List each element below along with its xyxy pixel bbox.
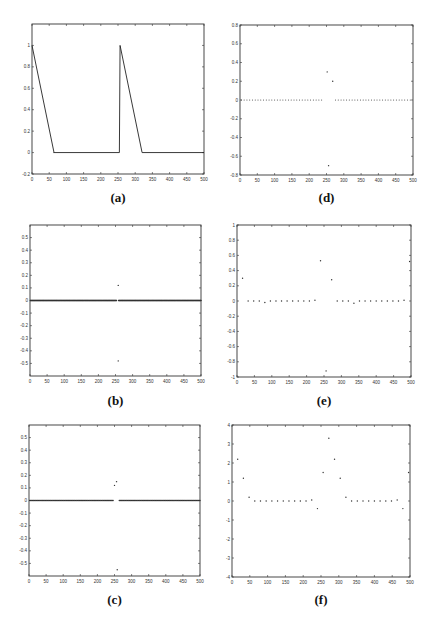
data-point xyxy=(357,100,358,101)
data-point xyxy=(275,300,276,301)
data-point xyxy=(393,100,394,101)
data-point xyxy=(374,500,375,501)
y-tick-label: 0 xyxy=(235,98,238,103)
data-point xyxy=(302,100,303,101)
data-point xyxy=(263,100,264,101)
data-point xyxy=(243,478,244,479)
x-tick-label: 400 xyxy=(166,177,174,182)
data-point xyxy=(345,497,346,498)
data-point xyxy=(294,500,295,501)
y-tick-label: -0.3 xyxy=(20,336,28,341)
x-tick-label: 0 xyxy=(236,380,239,385)
plot-frame xyxy=(237,225,411,377)
y-tick-label: 4 xyxy=(227,423,230,428)
y-tick-label: -2 xyxy=(226,537,230,542)
data-point xyxy=(382,100,383,101)
data-point xyxy=(280,100,281,101)
data-point xyxy=(257,100,258,101)
data-point xyxy=(293,100,294,101)
data-point xyxy=(337,300,338,301)
y-tick-label: -4 xyxy=(226,575,230,580)
data-point xyxy=(252,100,253,101)
x-tick-label: 250 xyxy=(317,580,325,585)
data-point xyxy=(398,300,399,301)
y-tick-label: 0.6 xyxy=(229,253,236,258)
y-tick-label: 0 xyxy=(24,498,27,503)
x-tick-label: 200 xyxy=(94,579,102,584)
x-tick-label: 300 xyxy=(128,579,136,584)
data-point xyxy=(241,100,242,101)
y-tick-label: 0.2 xyxy=(229,283,236,288)
data-point xyxy=(377,100,378,101)
y-tick-label: 0.2 xyxy=(24,129,31,134)
x-tick-label: 0 xyxy=(29,379,32,384)
data-point xyxy=(360,100,361,101)
data-point xyxy=(322,472,323,473)
data-point xyxy=(254,500,255,501)
x-tick-label: 150 xyxy=(288,178,296,183)
data-point xyxy=(316,100,317,101)
data-point xyxy=(409,261,410,262)
plot-frame xyxy=(232,425,410,577)
x-tick-label: 300 xyxy=(129,379,137,384)
data-point xyxy=(313,100,314,101)
x-tick-label: 450 xyxy=(183,177,191,182)
x-tick-label: 100 xyxy=(271,178,279,183)
y-tick-label: 0.4 xyxy=(21,448,28,453)
data-point xyxy=(352,100,353,101)
data-point xyxy=(385,100,386,101)
data-point xyxy=(270,300,271,301)
data-point xyxy=(286,300,287,301)
data-point xyxy=(305,500,306,501)
y-tick-label: -0.2 xyxy=(227,314,235,319)
x-tick-label: 500 xyxy=(409,178,417,183)
x-tick-label: 100 xyxy=(59,579,67,584)
data-point xyxy=(362,500,363,501)
data-point xyxy=(271,500,272,501)
y-tick-label: 0.2 xyxy=(232,79,239,84)
data-point xyxy=(364,300,365,301)
data-point xyxy=(396,499,397,500)
x-tick-label: 300 xyxy=(340,178,348,183)
data-point xyxy=(332,81,333,82)
data-point xyxy=(379,100,380,101)
y-tick-label: -0.4 xyxy=(19,548,27,553)
data-point xyxy=(237,459,238,460)
y-tick-label: 0.2 xyxy=(22,273,29,278)
x-tick-label: 250 xyxy=(111,579,119,584)
data-point xyxy=(401,100,402,101)
panel-a: 050100150200250300350400450500-0.200.20.… xyxy=(22,24,208,205)
data-point xyxy=(314,300,315,301)
y-tick-label: -0.2 xyxy=(22,172,30,177)
data-point xyxy=(303,300,304,301)
data-point xyxy=(277,500,278,501)
data-point xyxy=(298,300,299,301)
x-tick-label: 500 xyxy=(196,579,204,584)
data-point xyxy=(244,100,245,101)
y-tick-label: -0.3 xyxy=(19,536,27,541)
x-tick-label: 150 xyxy=(285,380,293,385)
data-point xyxy=(288,500,289,501)
data-point xyxy=(199,500,200,501)
data-point xyxy=(112,500,113,501)
data-point xyxy=(255,100,256,101)
data-point xyxy=(281,300,282,301)
y-tick-label: 1 xyxy=(232,223,235,228)
x-tick-label: 250 xyxy=(320,380,328,385)
y-tick-label: 0.4 xyxy=(22,248,29,253)
data-point xyxy=(407,100,408,101)
data-point xyxy=(311,499,312,500)
data-point xyxy=(116,481,117,482)
y-tick-label: -1 xyxy=(231,375,235,380)
y-tick-label: -0.4 xyxy=(227,329,235,334)
data-point xyxy=(349,100,350,101)
data-point xyxy=(403,300,404,301)
panel-label: (e) xyxy=(317,393,331,408)
y-tick-label: -3 xyxy=(226,556,230,561)
x-tick-label: 450 xyxy=(179,579,187,584)
data-point xyxy=(116,300,117,301)
x-tick-label: 400 xyxy=(162,579,170,584)
y-tick-label: -0.6 xyxy=(230,154,238,159)
data-point xyxy=(300,500,301,501)
x-tick-label: 350 xyxy=(149,177,157,182)
